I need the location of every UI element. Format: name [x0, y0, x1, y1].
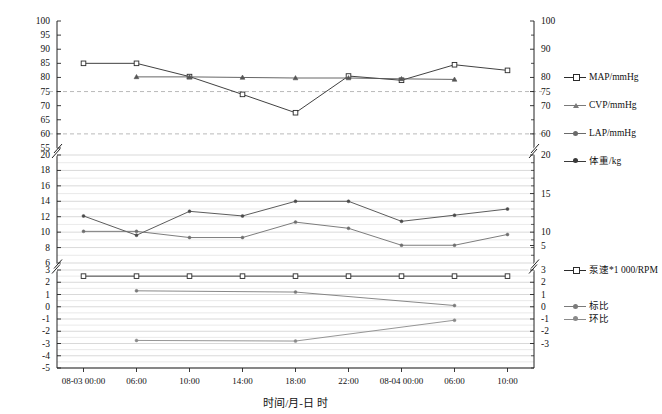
series-marker-4-0	[81, 274, 86, 279]
legend-label-5: 标比	[589, 301, 609, 312]
xtick-label-4: 18:00	[285, 376, 306, 386]
legend-label-3: 体重/kg	[589, 156, 621, 167]
ytick-label-left-blood-pressure-60: 60	[41, 129, 51, 139]
ytick-label-left-blood-pressure-80: 80	[41, 72, 51, 82]
series-marker-2-1	[135, 234, 138, 237]
legend-label-2: LAP/mmHg	[589, 128, 636, 139]
series-marker-0-3	[240, 92, 245, 97]
series-marker-2-4	[294, 200, 297, 203]
series-marker-3-5	[347, 227, 350, 230]
series-marker-2-3	[241, 214, 244, 217]
legend-marker-icon-5	[564, 302, 586, 311]
series-line-6	[137, 320, 455, 341]
series-marker-4-4	[293, 274, 298, 279]
xtick-label-3: 14:00	[232, 376, 253, 386]
legend-marker-icon-2	[564, 129, 586, 138]
series-marker-2-5	[347, 200, 350, 203]
xtick-label-1: 06:00	[126, 376, 147, 386]
ytick-label-left-blood-pressure-75: 75	[41, 87, 51, 97]
series-marker-4-2	[187, 274, 192, 279]
ytick-label-left-pump-ratio--2: -2	[42, 326, 50, 336]
ytick-label-right-blood-pressure-90: 90	[541, 44, 551, 54]
series-marker-4-7	[452, 274, 457, 279]
chart-canvas: 5560657075808590951006070758090100681012…	[0, 0, 662, 414]
series-line-3	[84, 222, 508, 245]
ytick-label-right-pump-ratio-5: 5	[541, 241, 546, 251]
legend-item-0[interactable]: MAP/mmHg	[564, 72, 639, 83]
legend-label-6: 环比	[589, 314, 609, 325]
ytick-label-right-pump-ratio-3: 3	[541, 265, 546, 275]
ytick-label-right-pump-ratio-2: 2	[541, 277, 546, 287]
series-marker-2-7	[453, 214, 456, 217]
ytick-label-right-lap-weight-10: 10	[541, 227, 551, 237]
ytick-label-left-pump-ratio--3: -3	[42, 339, 50, 349]
legend-marker-icon-6	[564, 315, 586, 324]
series-marker-5-1	[294, 291, 297, 294]
series-marker-3-1	[135, 230, 138, 233]
legend-item-4[interactable]: 泵速*1 000/RPM	[564, 265, 658, 276]
series-marker-4-1	[134, 274, 139, 279]
series-marker-6-1	[294, 340, 297, 343]
legend-marker-icon-4	[564, 266, 586, 275]
ytick-label-left-blood-pressure-100: 100	[36, 16, 50, 26]
series-line-2	[84, 201, 508, 235]
legend-marker-icon-0	[564, 73, 586, 82]
ytick-label-left-blood-pressure-90: 90	[41, 44, 51, 54]
legend-label-4: 泵速*1 000/RPM	[589, 265, 658, 276]
legend-item-5[interactable]: 标比	[564, 301, 609, 312]
ytick-label-left-lap-weight-16: 16	[41, 181, 51, 191]
series-marker-6-2	[453, 319, 456, 322]
series-marker-2-8	[506, 208, 509, 211]
ytick-label-left-pump-ratio--1: -1	[42, 314, 50, 324]
xtick-label-0: 08-03 00:00	[62, 376, 106, 386]
legend-marker-icon-1	[564, 101, 586, 110]
series-marker-3-0	[82, 230, 85, 233]
ytick-label-right-lap-weight-20: 20	[541, 150, 551, 160]
legend-item-1[interactable]: CVP/mmHg	[564, 100, 637, 111]
xtick-label-2: 10:00	[179, 376, 200, 386]
ytick-label-left-pump-ratio-1: 1	[45, 290, 50, 300]
ytick-label-left-lap-weight-12: 12	[41, 212, 51, 222]
xtick-label-6: 08-04 00:00	[380, 376, 424, 386]
ytick-label-left-pump-ratio-3: 3	[45, 265, 50, 275]
legend-item-6[interactable]: 环比	[564, 314, 609, 325]
ytick-label-right-pump-ratio--3: -3	[541, 339, 549, 349]
chart-plot-area	[0, 0, 662, 414]
ytick-label-right-pump-ratio-0: 0	[541, 302, 546, 312]
ytick-label-left-lap-weight-10: 10	[41, 227, 51, 237]
series-marker-2-0	[82, 214, 85, 217]
series-marker-0-7	[452, 62, 457, 67]
series-marker-4-8	[505, 274, 510, 279]
ytick-label-left-lap-weight-8: 8	[45, 243, 50, 253]
series-marker-3-2	[188, 236, 191, 239]
ytick-label-right-blood-pressure-80: 80	[541, 72, 551, 82]
ytick-label-left-pump-ratio-0: 0	[45, 302, 50, 312]
series-marker-4-5	[346, 274, 351, 279]
ytick-label-left-blood-pressure-85: 85	[41, 58, 51, 68]
legend-marker-icon-3	[564, 157, 586, 166]
ytick-label-left-lap-weight-18: 18	[41, 165, 51, 175]
legend-label-1: CVP/mmHg	[589, 100, 637, 111]
ytick-label-left-pump-ratio--5: -5	[42, 363, 50, 373]
legend-label-0: MAP/mmHg	[589, 72, 639, 83]
ytick-label-right-pump-ratio-1: 1	[541, 290, 546, 300]
series-marker-3-7	[453, 244, 456, 247]
series-marker-6-0	[135, 339, 138, 342]
series-marker-0-4	[293, 110, 298, 115]
ytick-label-right-pump-ratio--2: -2	[541, 326, 549, 336]
series-marker-4-3	[240, 274, 245, 279]
legend-item-2[interactable]: LAP/mmHg	[564, 128, 636, 139]
ytick-label-left-blood-pressure-65: 65	[41, 115, 51, 125]
legend-item-3[interactable]: 体重/kg	[564, 156, 621, 167]
x-axis-title: 时间/月-日 时	[263, 394, 327, 410]
ytick-label-left-blood-pressure-70: 70	[41, 101, 51, 111]
series-marker-3-3	[241, 236, 244, 239]
series-marker-0-8	[505, 68, 510, 73]
series-marker-5-0	[135, 289, 138, 292]
series-marker-4-6	[399, 274, 404, 279]
xtick-label-7: 06:00	[444, 376, 465, 386]
series-marker-3-4	[294, 221, 297, 224]
ytick-label-right-blood-pressure-75: 75	[541, 87, 551, 97]
xtick-label-5: 22:00	[338, 376, 359, 386]
series-marker-2-2	[188, 210, 191, 213]
